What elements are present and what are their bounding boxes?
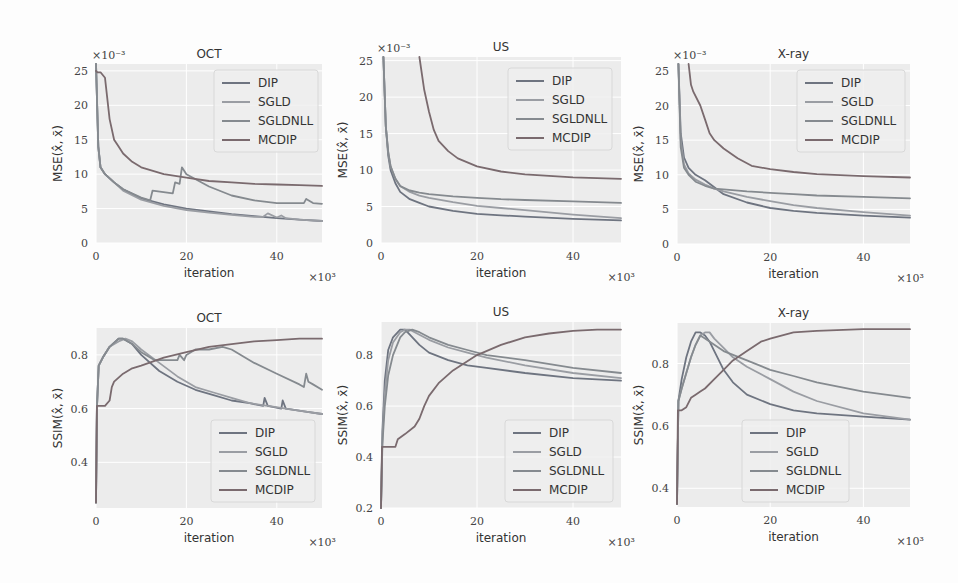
y-tick-label: 20 bbox=[74, 99, 88, 112]
x-multiplier: ×10³ bbox=[308, 271, 336, 284]
chart-title: X-ray bbox=[778, 306, 809, 320]
legend: DIPSGLDSGLDNLLMCDIP bbox=[211, 420, 315, 502]
x-tick-label: 20 bbox=[763, 514, 777, 527]
x-axis-label: iteration bbox=[768, 530, 819, 544]
y-axis-label: MSE(x̂, x̄) bbox=[632, 126, 646, 183]
legend: DIPSGLDSGLDNLLMCDIP bbox=[505, 420, 613, 502]
legend-label-sgldnll: SGLDNLL bbox=[841, 114, 897, 128]
y-tick-label: 0.4 bbox=[356, 451, 374, 464]
x-tick-label: 40 bbox=[856, 514, 870, 527]
y-tick-label: 0.6 bbox=[652, 420, 670, 433]
x-tick-label: 0 bbox=[93, 515, 100, 528]
chart-panel-top-left: 020400510152025OCTiteration×10³×10⁻³MSE(… bbox=[51, 47, 336, 284]
legend: DIPSGLDSGLDNLLMCDIP bbox=[214, 70, 318, 152]
legend: DIPSGLDSGLDNLLMCDIP bbox=[742, 420, 849, 502]
legend-label-mcdip: MCDIP bbox=[841, 133, 880, 147]
y-axis-label: SSIM(x̂, x̄) bbox=[336, 385, 350, 445]
y-tick-label: 0.4 bbox=[652, 482, 670, 495]
x-tick-label: 20 bbox=[470, 250, 484, 263]
x-tick-label: 0 bbox=[674, 251, 681, 264]
y-tick-label: 25 bbox=[359, 55, 373, 68]
legend-label-dip: DIP bbox=[258, 76, 278, 90]
legend-label-dip: DIP bbox=[549, 426, 569, 440]
y-tick-label: 5 bbox=[662, 203, 669, 216]
y-tick-label: 0.2 bbox=[356, 502, 374, 515]
x-multiplier: ×10³ bbox=[896, 272, 924, 285]
legend-label-dip: DIP bbox=[841, 76, 861, 90]
y-tick-label: 10 bbox=[655, 169, 669, 182]
x-axis-label: iteration bbox=[184, 266, 235, 280]
x-multiplier: ×10³ bbox=[896, 535, 924, 548]
y-tick-label: 25 bbox=[74, 65, 88, 78]
legend-label-sgldnll: SGLDNLL bbox=[552, 112, 608, 126]
chart-title: OCT bbox=[196, 311, 222, 325]
chart-title: X-ray bbox=[778, 47, 809, 61]
y-tick-label: 10 bbox=[74, 168, 88, 181]
y-tick-label: 15 bbox=[359, 128, 373, 141]
y-tick-label: 5 bbox=[366, 201, 373, 214]
chart-title: OCT bbox=[196, 47, 222, 61]
legend-label-sgld: SGLD bbox=[549, 445, 582, 459]
y-tick-label: 0.8 bbox=[652, 358, 670, 371]
x-tick-label: 20 bbox=[179, 515, 193, 528]
x-tick-label: 0 bbox=[93, 250, 100, 263]
chart-panel-bottom-middle: 020400.20.40.60.8USiteration×10³SSIM(x̂,… bbox=[336, 305, 635, 549]
y-multiplier: ×10⁻³ bbox=[92, 49, 125, 62]
y-tick-label: 0 bbox=[366, 237, 373, 250]
y-tick-label: 15 bbox=[655, 134, 669, 147]
x-multiplier: ×10³ bbox=[607, 536, 635, 549]
legend-label-sgld: SGLD bbox=[258, 95, 291, 109]
legend-label-sgld: SGLD bbox=[552, 93, 585, 107]
y-tick-label: 0.8 bbox=[71, 349, 89, 362]
y-tick-label: 0.6 bbox=[71, 403, 89, 416]
y-tick-label: 0 bbox=[81, 237, 88, 250]
y-tick-label: 20 bbox=[655, 100, 669, 113]
y-tick-label: 25 bbox=[655, 65, 669, 78]
y-tick-label: 10 bbox=[359, 164, 373, 177]
x-tick-label: 40 bbox=[566, 250, 580, 263]
x-tick-label: 40 bbox=[856, 251, 870, 264]
y-multiplier: ×10⁻³ bbox=[377, 42, 410, 55]
x-tick-label: 40 bbox=[270, 515, 284, 528]
legend-label-mcdip: MCDIP bbox=[258, 133, 297, 147]
legend-label-mcdip: MCDIP bbox=[549, 483, 588, 497]
y-axis-label: SSIM(x̂, x̄) bbox=[51, 388, 65, 448]
legend-label-dip: DIP bbox=[255, 426, 275, 440]
legend: DIPSGLDSGLDNLLMCDIP bbox=[508, 68, 612, 150]
y-axis-label: SSIM(x̂, x̄) bbox=[632, 385, 646, 445]
chart-panel-top-middle: 020400510152025USiteration×10³×10⁻³MSE(x… bbox=[336, 40, 635, 284]
y-tick-label: 0 bbox=[662, 238, 669, 251]
x-tick-label: 0 bbox=[674, 514, 681, 527]
chart-title: US bbox=[493, 305, 509, 319]
x-axis-label: iteration bbox=[476, 266, 527, 280]
x-tick-label: 40 bbox=[566, 515, 580, 528]
x-axis-label: iteration bbox=[476, 531, 527, 545]
legend-label-sgld: SGLD bbox=[786, 445, 819, 459]
y-tick-label: 5 bbox=[81, 203, 88, 216]
legend-label-sgldnll: SGLDNLL bbox=[549, 464, 605, 478]
figure: 020400510152025OCTiteration×10³×10⁻³MSE(… bbox=[0, 0, 958, 583]
legend-label-mcdip: MCDIP bbox=[552, 131, 591, 145]
x-tick-label: 20 bbox=[763, 251, 777, 264]
x-axis-label: iteration bbox=[768, 267, 819, 281]
legend-label-sgld: SGLD bbox=[841, 95, 874, 109]
chart-panel-bottom-right: 020400.40.60.8X-rayiteration×10³SSIM(x̂,… bbox=[632, 306, 924, 548]
x-tick-label: 20 bbox=[179, 250, 193, 263]
y-tick-label: 0.4 bbox=[71, 456, 89, 469]
legend-label-sgldnll: SGLDNLL bbox=[255, 464, 311, 478]
x-tick-label: 0 bbox=[378, 250, 385, 263]
y-multiplier: ×10⁻³ bbox=[673, 49, 706, 62]
legend-label-dip: DIP bbox=[552, 74, 572, 88]
y-tick-label: 0.8 bbox=[356, 349, 374, 362]
y-axis-label: MSE(x̂, x̄) bbox=[51, 125, 65, 182]
legend-label-mcdip: MCDIP bbox=[786, 483, 825, 497]
chart-panel-bottom-left: 020400.40.60.8OCTiteration×10³SSIM(x̂, x… bbox=[51, 311, 336, 549]
x-tick-label: 0 bbox=[378, 515, 385, 528]
y-tick-label: 0.6 bbox=[356, 400, 374, 413]
chart-panel-top-right: 020400510152025X-rayiteration×10³×10⁻³MS… bbox=[632, 47, 924, 285]
y-axis-label: MSE(x̂, x̄) bbox=[336, 122, 350, 179]
legend-label-sgld: SGLD bbox=[255, 445, 288, 459]
y-tick-label: 20 bbox=[359, 91, 373, 104]
x-multiplier: ×10³ bbox=[607, 271, 635, 284]
chart-title: US bbox=[493, 40, 509, 54]
